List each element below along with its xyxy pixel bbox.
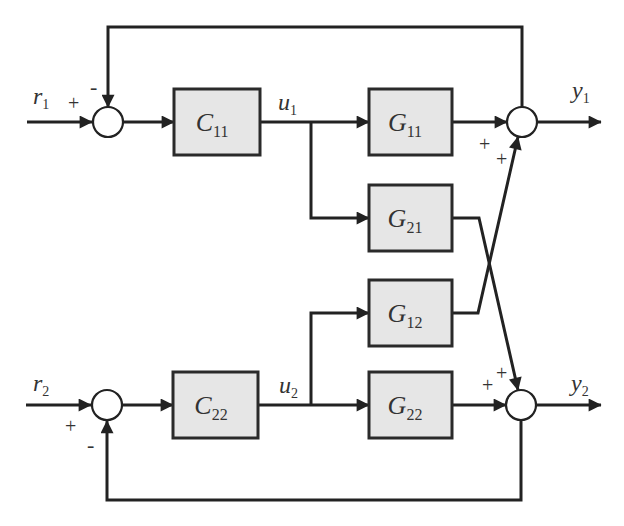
block-g22: [369, 372, 452, 438]
sign-sum2-g11: +: [479, 133, 490, 155]
signal-u1-label: u1: [278, 89, 297, 118]
block-g21: [369, 185, 452, 251]
block-c22: [173, 372, 258, 438]
sign-sum4-g21: +: [496, 362, 507, 384]
input-r2-label: r2: [33, 370, 49, 399]
u1-to-g21-line: [311, 122, 369, 218]
summing-junction-4: [506, 390, 536, 420]
block-g11: [369, 89, 452, 155]
summing-junction-1: [93, 107, 123, 137]
summing-junction-2: [507, 107, 537, 137]
block-diagram: C11 G11 G21 G12 C22 G22 r1 r2 u1 u2 y1 y…: [0, 0, 624, 526]
block-g12: [369, 280, 452, 346]
summing-junction-3: [92, 390, 122, 420]
y1-feedback-line: [108, 27, 522, 107]
sign-sum2-g12: +: [496, 148, 507, 170]
sign-sum3-input: +: [65, 415, 76, 437]
sign-sum1-input: +: [68, 92, 79, 114]
output-y2-label: y2: [569, 370, 589, 399]
g21-to-sum4-line: [452, 218, 518, 390]
signal-u2-label: u2: [279, 372, 298, 401]
sign-sum4-g22: +: [482, 374, 493, 396]
sign-sum1-feedback: -: [90, 74, 97, 99]
block-c11: [174, 89, 260, 155]
g12-to-sum2-line: [452, 137, 518, 313]
input-r1-label: r1: [33, 83, 49, 112]
u2-to-g12-line: [311, 313, 369, 405]
y2-feedback-line: [107, 420, 521, 500]
output-y1-label: y1: [570, 77, 590, 106]
sign-sum3-feedback: -: [87, 432, 94, 457]
